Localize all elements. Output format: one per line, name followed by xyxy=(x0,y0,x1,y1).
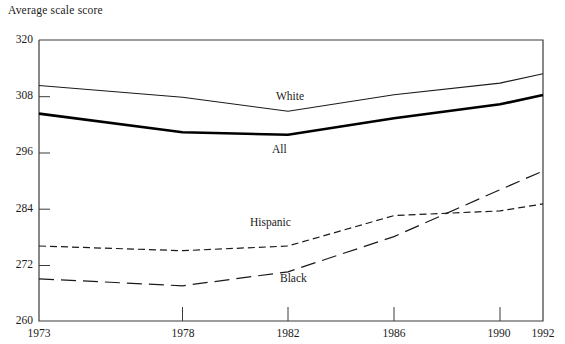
series-line-hispanic xyxy=(39,204,543,251)
y-axis-ticks xyxy=(39,97,50,266)
chart-plot-svg xyxy=(0,0,565,344)
plot-frame xyxy=(39,40,543,321)
series-line-black xyxy=(39,171,543,286)
x-axis-ticks xyxy=(183,307,501,321)
series-line-all xyxy=(39,95,543,135)
series-line-white xyxy=(39,74,543,111)
plot-border xyxy=(39,40,543,321)
chart-figure: Average scale score 320 308 296 284 272 … xyxy=(0,0,565,344)
